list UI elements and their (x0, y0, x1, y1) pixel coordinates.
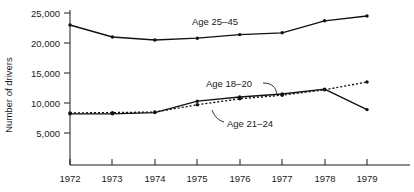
line-chart-plot: 25,000 20,000 15,000 10,000 5,000 Number… (0, 0, 414, 192)
x-tick-label-1975: 1975 (186, 173, 207, 184)
y-axis-title: Number of drivers (3, 57, 14, 133)
data-point (196, 103, 199, 106)
data-point (365, 14, 368, 17)
data-point (153, 38, 156, 41)
x-axis-ticks (70, 159, 367, 165)
series-label-age-25-45: Age 25–45 (192, 16, 238, 27)
data-point (196, 100, 199, 103)
x-tick-label-1976: 1976 (229, 173, 250, 184)
y-tick-label-10000: 10,000 (31, 98, 60, 109)
y-tick-label-20000: 20,000 (31, 38, 60, 49)
data-point (323, 88, 326, 91)
x-tick-label-1972: 1972 (59, 173, 80, 184)
data-point (323, 19, 326, 22)
y-tick-label-15000: 15,000 (31, 68, 60, 79)
series-label-age-21-24: Age 21–24 (227, 118, 273, 129)
series-label-age-18-20: Age 18–20 (206, 78, 252, 89)
x-tick-label-1973: 1973 (101, 173, 122, 184)
y-tick-label-5000: 5,000 (36, 128, 60, 139)
x-tick-label-1979: 1979 (356, 173, 377, 184)
data-series-layer (68, 14, 368, 115)
x-tick-label-1974: 1974 (144, 173, 165, 184)
leader-line-age-18-20 (263, 83, 277, 95)
data-point (153, 110, 156, 113)
data-point (238, 33, 241, 36)
data-point (365, 108, 368, 111)
data-point (68, 111, 71, 114)
y-tick-label-25000: 25,000 (31, 8, 60, 19)
data-point (365, 80, 368, 83)
data-point (68, 23, 71, 26)
data-point (280, 94, 283, 97)
data-point (111, 111, 114, 114)
x-axis-tick-labels: 1972 1973 1974 1975 1976 1977 1978 1979 (59, 173, 377, 184)
data-point (280, 31, 283, 34)
chart-figure: 25,000 20,000 15,000 10,000 5,000 Number… (0, 0, 414, 192)
annotation-labels: Age 25–45 Age 18–20 Age 21–24 (192, 16, 273, 129)
leader-line-age-21-24 (212, 110, 224, 122)
x-tick-label-1977: 1977 (271, 173, 292, 184)
x-tick-label-1978: 1978 (314, 173, 335, 184)
y-axis-tick-labels: 25,000 20,000 15,000 10,000 5,000 (31, 8, 60, 139)
data-point (238, 97, 241, 100)
data-point (111, 35, 114, 38)
data-point (196, 37, 199, 40)
